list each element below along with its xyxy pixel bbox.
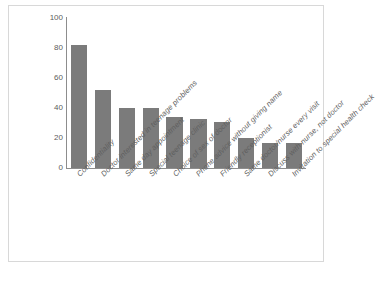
- caption: [6, 272, 186, 280]
